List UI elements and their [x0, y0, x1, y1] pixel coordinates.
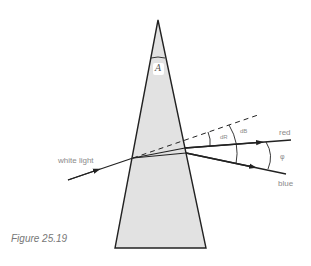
- blue-deviation-label: dB: [240, 128, 247, 134]
- prism-diagram: [0, 0, 311, 266]
- white-light-label: white light: [58, 157, 94, 165]
- blue-arrow-icon: [186, 153, 253, 167]
- blue-label: blue: [278, 180, 293, 188]
- dispersion-angle-arc: [266, 142, 271, 169]
- prism: [115, 20, 206, 248]
- dispersion-angle-label: φ: [280, 153, 285, 160]
- red-deviation-label: dR: [220, 134, 228, 140]
- incident-arrow-icon: [68, 170, 97, 180]
- red-label: red: [279, 129, 291, 137]
- red-deviation-arc: [208, 132, 210, 146]
- red-arrow-icon: [185, 142, 260, 148]
- figure-caption: Figure 25.19: [11, 233, 67, 244]
- apex-angle-label: A: [155, 64, 162, 73]
